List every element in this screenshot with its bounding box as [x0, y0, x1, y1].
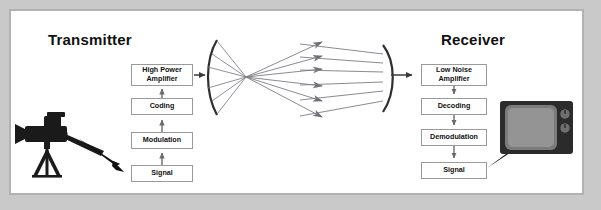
block-decoding[interactable]: Decoding: [421, 98, 487, 115]
parabolic-reflector-receive: [383, 45, 393, 112]
block-receive-signal[interactable]: Signal: [421, 162, 487, 179]
propagation-rays: [300, 44, 383, 116]
block-low-noise-amplifier[interactable]: Low Noise Amplifier: [421, 64, 487, 86]
block-high-power-amplifier[interactable]: High Power Amplifier: [131, 64, 193, 86]
crt-television: [500, 101, 573, 154]
block-transmit-signal[interactable]: Signal: [131, 165, 193, 182]
receiver-title: Receiver: [441, 31, 505, 48]
block-modulation[interactable]: Modulation: [131, 132, 193, 149]
video-camera-on-tripod: [15, 112, 104, 178]
transmitter-title: Transmitter: [48, 31, 132, 48]
block-demodulation[interactable]: Demodulation: [421, 129, 487, 146]
figure-canvas: Transmitter Receiver High Power Amplifie…: [0, 0, 601, 210]
parabolic-reflector-transmit: [208, 40, 322, 117]
block-coding[interactable]: Coding: [131, 98, 193, 115]
